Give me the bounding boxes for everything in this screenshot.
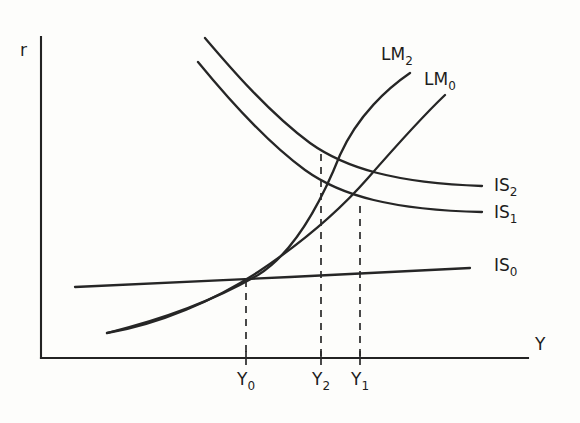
curve-label-is2: IS2	[494, 175, 517, 199]
x-tick-label-y1: Y1	[350, 369, 369, 393]
x-tick-label-y0: Y0	[236, 369, 255, 393]
equilibrium-droplines	[246, 154, 360, 358]
x-tick-label-y2: Y2	[311, 369, 330, 393]
curve-label-lm2: LM2	[381, 44, 413, 68]
curve-lm0	[107, 95, 445, 333]
curve-label-is0: IS0	[494, 255, 517, 279]
curve-is2	[205, 38, 482, 186]
curve-lm2	[107, 73, 410, 333]
diagram-canvas: r Y LM2 LM0 IS2 IS1 IS0 Y0 Y2 Y1	[0, 0, 580, 423]
is-lm-diagram: r Y LM2 LM0 IS2 IS1 IS0 Y0 Y2 Y1	[0, 0, 580, 423]
curve-is0	[75, 268, 470, 287]
curve-label-lm0: LM0	[424, 69, 456, 93]
x-axis-label: Y	[534, 334, 546, 354]
y-axis-label: r	[20, 40, 27, 60]
curve-label-is1: IS1	[494, 202, 517, 226]
